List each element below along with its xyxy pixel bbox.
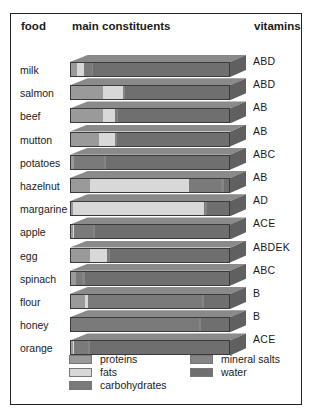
- legend-item-water: water: [190, 366, 247, 378]
- legend: proteins fats carbohydrates mineral salt…: [69, 353, 299, 393]
- vitamins-label: ABDEK: [253, 241, 290, 253]
- bar-top-face: [70, 310, 246, 317]
- food-label: salmon: [20, 87, 54, 99]
- segment-proteins: [71, 179, 90, 192]
- stacked-bar: [70, 171, 246, 197]
- bar-front-face: [70, 271, 230, 286]
- vitamins-label: B: [253, 310, 260, 322]
- bar-front-face: [70, 317, 230, 332]
- food-label: potatoes: [20, 157, 60, 169]
- bar-row-margarine: margarineAD: [0, 194, 309, 218]
- segment-water: [207, 202, 229, 215]
- vitamins-label: ACE: [253, 333, 276, 345]
- legend-label-proteins: proteins: [100, 353, 137, 365]
- vitamins-label: ABD: [253, 78, 276, 90]
- vitamins-label: ABC: [253, 148, 276, 160]
- bar-row-flour: flourB: [0, 287, 309, 311]
- bar-row-mutton: muttonAB: [0, 125, 309, 149]
- food-column-header: food: [21, 20, 46, 32]
- stacked-bar: [70, 241, 246, 267]
- legend-item-mineral-salts: mineral salts: [190, 353, 280, 365]
- legend-item-carbohydrates: carbohydrates: [69, 379, 167, 391]
- bar-top-face: [70, 333, 246, 340]
- bar-front-face: [70, 248, 230, 263]
- segment-proteins: [71, 133, 99, 146]
- segment-carbohydrates: [71, 318, 199, 331]
- segment-fats: [90, 249, 107, 262]
- segment-fats: [103, 86, 124, 99]
- segment-proteins: [71, 249, 90, 262]
- bar-row-milk: milkABD: [0, 55, 309, 79]
- segment-water: [118, 109, 229, 122]
- legend-item-fats: fats: [69, 366, 117, 378]
- bar-row-egg: eggABDEK: [0, 241, 309, 265]
- stacked-bar: [70, 194, 246, 220]
- stacked-bar: [70, 310, 246, 336]
- bar-front-face: [70, 178, 230, 193]
- segment-carbohydrates: [74, 156, 104, 169]
- segment-carbohydrates: [88, 295, 202, 308]
- carbohydrates-swatch: [69, 381, 92, 390]
- bar-top-face: [70, 101, 246, 108]
- vitamins-label: AB: [253, 101, 268, 113]
- bar-row-spinach: spinachABC: [0, 264, 309, 288]
- food-label: orange: [20, 342, 53, 354]
- legend-item-proteins: proteins: [69, 353, 137, 365]
- vitamins-label: ABD: [253, 55, 276, 67]
- segment-fats: [90, 179, 190, 192]
- stacked-bar: [70, 287, 246, 313]
- bar-front-face: [70, 294, 230, 309]
- food-label: margarine: [20, 203, 67, 215]
- vitamins-label: AB: [253, 171, 268, 183]
- constituents-column-header: main constituents: [72, 20, 170, 32]
- segment-water: [95, 225, 229, 238]
- bar-row-hazelnut: hazelnutAB: [0, 171, 309, 195]
- segment-water: [204, 295, 229, 308]
- food-label: beef: [20, 110, 40, 122]
- segment-water: [85, 272, 229, 285]
- vitamins-column-header: vitamins: [254, 20, 301, 32]
- vitamins-label: AD: [253, 194, 268, 206]
- food-label: apple: [20, 226, 46, 238]
- stacked-bar: [70, 264, 246, 290]
- bar-front-face: [70, 62, 230, 77]
- proteins-swatch: [69, 355, 92, 364]
- segment-water: [224, 179, 229, 192]
- vitamins-label: ABC: [253, 264, 276, 276]
- food-label: hazelnut: [20, 180, 60, 192]
- bar-top-face: [70, 287, 246, 294]
- segment-proteins: [71, 86, 103, 99]
- stacked-bar: [70, 217, 246, 243]
- stacked-bar: [70, 125, 246, 151]
- stacked-bar: [70, 78, 246, 104]
- vitamins-label: ACE: [253, 217, 276, 229]
- bar-row-honey: honeyB: [0, 310, 309, 334]
- bar-row-apple: appleACE: [0, 217, 309, 241]
- segment-water: [201, 318, 229, 331]
- bar-front-face: [70, 108, 230, 123]
- bar-front-face: [70, 224, 230, 239]
- food-label: honey: [20, 319, 49, 331]
- bar-row-salmon: salmonABD: [0, 78, 309, 102]
- vitamins-label: AB: [253, 125, 268, 137]
- bar-front-face: [70, 155, 230, 170]
- legend-label-mineral-salts: mineral salts: [221, 353, 280, 365]
- segment-carbohydrates: [74, 225, 93, 238]
- food-label: spinach: [20, 273, 56, 285]
- stacked-bar: [70, 148, 246, 174]
- bar-top-face: [70, 125, 246, 132]
- segment-fats: [103, 109, 116, 122]
- segment-carbohydrates: [84, 63, 92, 76]
- bar-top-face: [70, 78, 246, 85]
- bar-top-face: [70, 264, 246, 271]
- mineral-salts-swatch: [190, 355, 213, 364]
- fats-swatch: [69, 368, 92, 377]
- bar-top-face: [70, 171, 246, 178]
- legend-label-fats: fats: [100, 366, 117, 378]
- segment-water: [106, 156, 229, 169]
- bar-front-face: [70, 201, 230, 216]
- segment-water: [93, 63, 229, 76]
- food-label: egg: [20, 250, 38, 262]
- segment-proteins: [71, 109, 103, 122]
- segment-water: [117, 133, 229, 146]
